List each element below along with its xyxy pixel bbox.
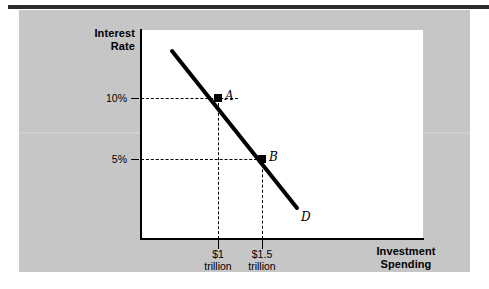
figure-panel: Interest Rate Investment Spending 10% 5%… [19, 10, 470, 272]
data-point-a-label: A [225, 89, 234, 103]
data-point-b-label: B [269, 150, 278, 164]
demand-curve-svg [19, 10, 470, 272]
data-point-b-marker [258, 155, 266, 163]
demand-curve-line [172, 51, 297, 208]
x-tick-label-1-5-trillion-line-2: trillion [231, 261, 293, 273]
x-tick-label-1-5-trillion: $1.5 trillion [231, 249, 293, 272]
data-point-a-marker [214, 94, 222, 102]
x-tick-label-1-5-trillion-line-1: $1.5 [231, 249, 293, 261]
top-rule-divider [8, 5, 489, 9]
curve-label-d: D [301, 210, 311, 224]
investment-demand-figure: Interest Rate Investment Spending 10% 5%… [0, 0, 489, 289]
